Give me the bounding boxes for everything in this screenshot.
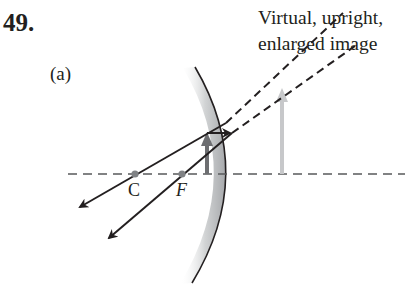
center-of-curvature-point	[131, 170, 138, 177]
mirror-shading	[180, 67, 226, 284]
virtual-extension-center-ray	[226, 13, 343, 123]
focus-label: F	[176, 180, 187, 201]
ray-diagram	[0, 0, 419, 301]
concave-mirror	[180, 67, 226, 284]
center-label: C	[128, 180, 140, 201]
reflected-ray-through-center	[80, 123, 226, 207]
focal-point	[178, 170, 185, 177]
